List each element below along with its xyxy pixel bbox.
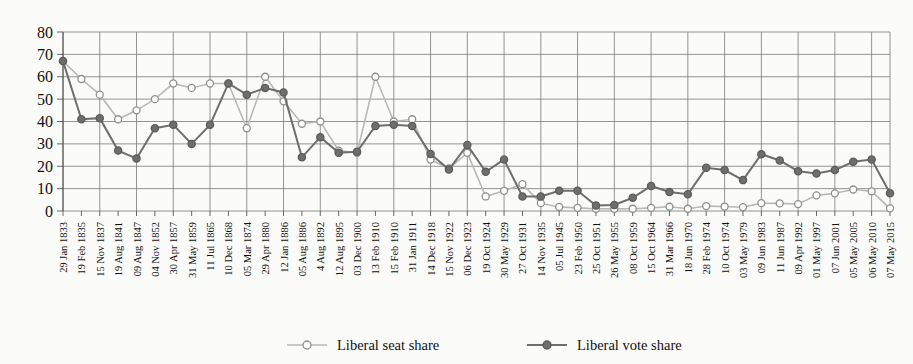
data-point-marker	[115, 116, 122, 123]
data-point-marker	[592, 202, 599, 209]
data-point-marker	[409, 122, 416, 129]
data-point-marker	[243, 125, 250, 132]
y-tick-label: 80	[37, 24, 53, 41]
data-point-marker	[409, 116, 416, 123]
x-tick-label: 15 Nov 1837	[95, 222, 106, 277]
x-tick-label: 26 May 1955	[609, 222, 620, 278]
x-tick-label: 06 Dec 1923	[462, 222, 473, 276]
x-tick-label: 05 Aug 1886	[297, 222, 308, 276]
data-point-marker	[262, 73, 269, 80]
legend-item-vote-share[interactable]: Liberal vote share	[527, 337, 682, 353]
data-point-marker	[482, 193, 489, 200]
x-tick-label: 10 Oct 1974	[720, 221, 731, 274]
grid-layer	[63, 32, 890, 211]
data-point-marker	[445, 166, 452, 173]
data-point-marker	[831, 190, 838, 197]
x-tick-label: 29 Jan 1833	[58, 222, 69, 273]
data-point-marker	[78, 75, 85, 82]
data-point-marker	[390, 121, 397, 128]
data-point-marker	[225, 80, 232, 87]
data-point-marker	[776, 157, 783, 164]
data-point-marker	[59, 57, 66, 64]
data-point-marker	[758, 200, 765, 207]
data-point-marker	[206, 121, 213, 128]
data-point-marker	[795, 201, 802, 208]
data-point-marker	[813, 170, 820, 177]
data-point-marker	[500, 156, 507, 163]
ytick-layer: 01020304050607080	[37, 24, 63, 220]
y-tick-label: 10	[37, 180, 53, 197]
x-tick-label: 19 Feb 1835	[76, 222, 87, 275]
data-point-marker	[115, 147, 122, 154]
x-tick-label: 31 May 1859	[187, 222, 198, 278]
x-tick-label: 14 Dec 1918	[426, 222, 437, 276]
chart-legend: Liberal seat shareLiberal vote share	[287, 337, 682, 353]
x-tick-label: 07 May 2015	[885, 222, 896, 278]
x-tick-label: 31 Jan 1911	[407, 222, 418, 272]
x-tick-label: 11 Jun 1987	[775, 222, 786, 273]
legend-item-seat-share[interactable]: Liberal seat share	[287, 337, 439, 353]
data-point-marker	[795, 168, 802, 175]
x-tick-label: 23 Feb 1950	[573, 222, 584, 275]
data-point-marker	[133, 155, 140, 162]
legend-marker-icon	[543, 341, 551, 349]
data-point-marker	[776, 200, 783, 207]
data-point-marker	[666, 188, 673, 195]
x-tick-label: 05 Jul 1945	[554, 222, 565, 271]
line-chart: 01020304050607080 29 Jan 183319 Feb 1835…	[0, 0, 913, 364]
x-tick-label: 30 Apr 1857	[168, 222, 179, 275]
data-point-marker	[831, 166, 838, 173]
y-tick-label: 60	[37, 68, 53, 85]
data-point-marker	[96, 91, 103, 98]
data-point-marker	[372, 73, 379, 80]
x-tick-label: 12 Aug 1895	[334, 222, 345, 276]
data-point-marker	[317, 134, 324, 141]
data-point-marker	[703, 203, 710, 210]
legend-label: Liberal vote share	[577, 337, 682, 353]
data-point-marker	[868, 188, 875, 195]
data-point-marker	[666, 203, 673, 210]
data-point-marker	[482, 168, 489, 175]
x-tick-label: 09 Apr 1992	[793, 222, 804, 275]
data-point-marker	[739, 177, 746, 184]
x-tick-label: 03 May 1979	[738, 222, 749, 278]
x-tick-label: 10 Dec 1868	[223, 222, 234, 276]
data-point-marker	[188, 140, 195, 147]
x-tick-label: 07 Jun 2001	[830, 222, 841, 273]
data-point-marker	[886, 190, 893, 197]
x-tick-label: 06 May 2010	[867, 222, 878, 278]
data-point-marker	[170, 121, 177, 128]
data-point-marker	[537, 200, 544, 207]
x-tick-label: 12 Jan 1886	[279, 222, 290, 273]
data-point-marker	[703, 164, 710, 171]
data-point-marker	[335, 149, 342, 156]
x-tick-label: 05 May 2005	[848, 222, 859, 278]
x-tick-label: 25 Oct 1951	[591, 222, 602, 274]
series-line	[63, 61, 890, 209]
data-point-marker	[868, 156, 875, 163]
y-tick-label: 70	[37, 46, 53, 63]
y-tick-label: 50	[37, 91, 53, 108]
data-point-marker	[262, 84, 269, 91]
x-tick-label: 01 May 1997	[811, 222, 822, 278]
data-point-marker	[887, 205, 894, 212]
data-point-marker	[280, 89, 287, 96]
data-point-marker	[151, 125, 158, 132]
data-point-marker	[850, 186, 857, 193]
x-tick-label: 18 Jun 1970	[683, 222, 694, 273]
data-point-marker	[170, 80, 177, 87]
x-tick-label: 30 May 1929	[499, 222, 510, 278]
x-tick-label: 13 Feb 1910	[370, 222, 381, 275]
x-tick-label: 15 Feb 1910	[389, 222, 400, 275]
y-tick-label: 20	[37, 158, 53, 175]
data-point-marker	[464, 141, 471, 148]
data-point-marker	[537, 193, 544, 200]
series-line	[63, 61, 890, 205]
data-point-marker	[721, 166, 728, 173]
series-vote-share	[59, 57, 893, 209]
x-tick-label: 28 Feb 1974	[701, 221, 712, 274]
x-tick-label: 04 Nov 1852	[150, 222, 161, 277]
data-point-marker	[519, 193, 526, 200]
series-layer	[59, 57, 893, 212]
data-point-marker	[298, 154, 305, 161]
